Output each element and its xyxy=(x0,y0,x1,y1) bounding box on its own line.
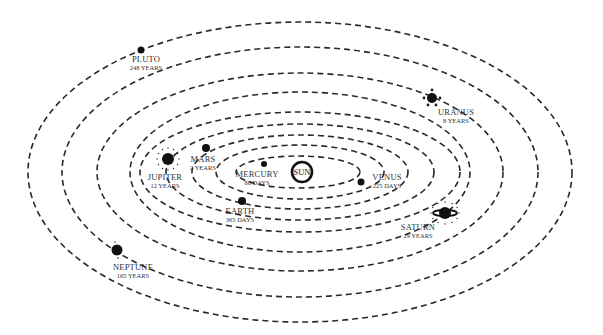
planet-name: MERCURY xyxy=(236,169,279,179)
planet-period: 8 YEARS xyxy=(443,117,469,124)
moon-dot-icon xyxy=(167,169,168,170)
planet-mars: MARS2 YEARS xyxy=(190,144,216,171)
planet-name: VENUS xyxy=(372,172,401,182)
moon-dot-icon xyxy=(158,164,159,165)
jupiter-icon xyxy=(162,153,174,165)
moon-dot-icon xyxy=(458,212,459,213)
moon-dot-icon xyxy=(444,223,445,224)
moon-dot-icon xyxy=(437,203,438,204)
moon-dot-icon xyxy=(117,257,119,259)
planet-period: 29 YEARS xyxy=(403,232,433,239)
planet-jupiter: JUPITER12 YEARS xyxy=(148,147,183,189)
moon-dot-icon xyxy=(156,158,157,159)
planet-name: JUPITER xyxy=(148,172,183,182)
moon-dot-icon xyxy=(431,89,434,92)
planet-period: 248 YEARS xyxy=(130,64,163,71)
mercury-icon xyxy=(261,161,267,167)
sun: SUN xyxy=(292,162,312,182)
planet-period: 88 DAYS xyxy=(244,179,270,186)
planet-period: 2 YEARS xyxy=(190,164,216,171)
moon-dot-icon xyxy=(451,222,452,223)
saturn-icon xyxy=(439,207,451,219)
moon-dot-icon xyxy=(167,147,168,148)
moon-dot-icon xyxy=(456,218,457,219)
moon-dot-icon xyxy=(430,212,431,213)
planet-name: PLUTO xyxy=(132,54,160,64)
moon-dot-icon xyxy=(456,207,457,208)
planet-pluto: PLUTO248 YEARS xyxy=(130,47,163,72)
planet-name: EARTH xyxy=(226,206,255,216)
moon-dot-icon xyxy=(439,97,442,100)
moon-dot-icon xyxy=(162,168,163,169)
sun-label: SUN xyxy=(293,167,310,177)
moon-dot-icon xyxy=(178,158,179,159)
neptune-icon xyxy=(112,245,123,256)
moon-dot-icon xyxy=(173,168,174,169)
planet-saturn: SATURN29 YEARS xyxy=(401,201,460,239)
moon-dot-icon xyxy=(173,149,174,150)
planet-group: MERCURY88 DAYSVENUS225 DAYSEARTH365 DAYS… xyxy=(112,47,475,280)
moon-dot-icon xyxy=(423,97,426,100)
moon-dot-icon xyxy=(451,203,452,204)
moon-dot-icon xyxy=(435,104,438,107)
moon-dot-icon xyxy=(158,153,159,154)
moon-dot-icon xyxy=(427,104,430,107)
planet-name: URANUS xyxy=(438,107,474,117)
solar-system-diagram: SUN MERCURY88 DAYSVENUS225 DAYSEARTH365 … xyxy=(0,0,603,335)
uranus-icon xyxy=(427,93,437,103)
planet-name: NEPTUNE xyxy=(113,262,153,272)
venus-icon xyxy=(358,179,365,186)
planet-period: 165 YEARS xyxy=(117,272,150,279)
earth-icon xyxy=(238,197,246,205)
planet-name: SATURN xyxy=(401,222,435,232)
planet-period: 225 DAYS xyxy=(373,182,402,189)
pluto-icon xyxy=(138,47,145,54)
mars-icon xyxy=(202,144,210,152)
moon-dot-icon xyxy=(437,222,438,223)
moon-dot-icon xyxy=(444,201,445,202)
planet-venus: VENUS225 DAYS xyxy=(358,172,402,189)
moon-dot-icon xyxy=(162,149,163,150)
moon-dot-icon xyxy=(177,164,178,165)
planet-period: 12 YEARS xyxy=(150,182,180,189)
planet-name: MARS xyxy=(191,154,216,164)
moon-dot-icon xyxy=(432,218,433,219)
planet-uranus: URANUS8 YEARS xyxy=(423,89,475,124)
moon-dot-icon xyxy=(114,241,116,243)
moon-dot-icon xyxy=(177,153,178,154)
moon-dot-icon xyxy=(432,207,433,208)
planet-period: 365 DAYS xyxy=(226,216,255,223)
